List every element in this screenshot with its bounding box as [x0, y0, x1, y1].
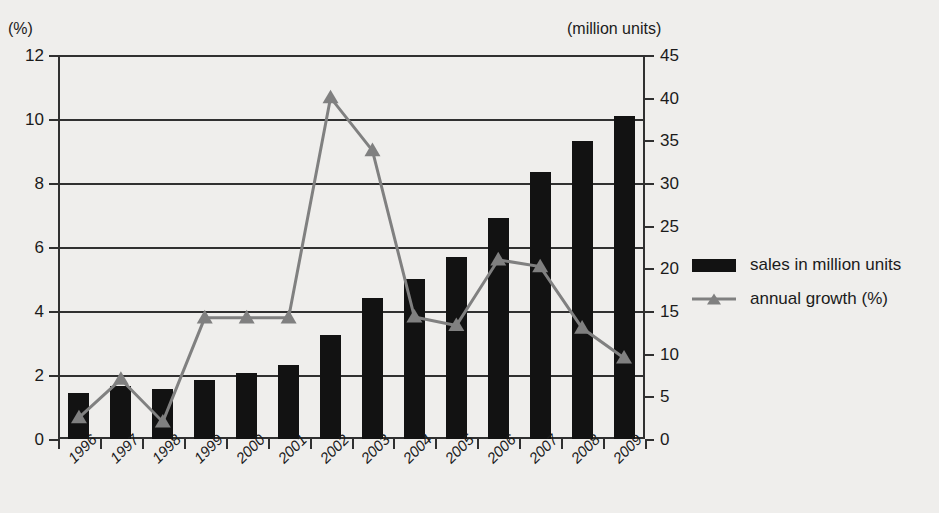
right-axis-tick — [645, 55, 654, 57]
x-axis-tick — [142, 439, 144, 449]
x-axis-tick — [435, 439, 437, 449]
bar — [362, 298, 383, 439]
left-axis-tick-label: 10 — [25, 111, 44, 128]
right-axis-tick — [645, 183, 654, 185]
left-axis-tick — [49, 311, 58, 313]
legend-label-sales: sales in million units — [750, 255, 901, 275]
right-axis-tick-label: 35 — [660, 132, 679, 149]
legend-item-growth: annual growth (%) — [692, 282, 901, 316]
x-axis-tick — [645, 439, 647, 449]
chart-legend: sales in million units annual growth (%) — [692, 248, 901, 316]
right-axis-tick — [645, 311, 654, 313]
left-axis-tick-label: 12 — [25, 47, 44, 64]
plot-area: 024681012 051015202530354045 19961997199… — [58, 55, 645, 439]
bar — [530, 172, 551, 439]
bar — [236, 373, 257, 439]
x-axis-tick — [184, 439, 186, 449]
x-axis-tick — [393, 439, 395, 449]
right-axis-tick-label: 45 — [660, 47, 679, 64]
right-axis-tick-label: 5 — [660, 388, 669, 405]
left-axis-tick-label: 4 — [35, 303, 44, 320]
right-axis-tick-label: 10 — [660, 345, 679, 362]
bar — [572, 141, 593, 439]
left-axis-unit-label: (%) — [8, 20, 33, 38]
right-axis-tick — [645, 396, 654, 398]
legend-item-sales: sales in million units — [692, 248, 901, 282]
bar — [278, 365, 299, 439]
left-axis-tick-label: 8 — [35, 175, 44, 192]
right-axis-unit-label: (million units) — [567, 20, 661, 38]
left-axis-tick — [49, 119, 58, 121]
right-axis-tick-label: 0 — [660, 431, 669, 448]
bar — [488, 218, 509, 439]
right-axis-tick-label: 40 — [660, 89, 679, 106]
left-axis-tick-label: 0 — [35, 431, 44, 448]
right-axis-tick-label: 15 — [660, 303, 679, 320]
right-axis-tick-label: 20 — [660, 260, 679, 277]
gridline — [58, 247, 645, 249]
left-axis-tick-label: 2 — [35, 367, 44, 384]
bar-swatch-icon — [692, 259, 736, 272]
x-axis-tick — [477, 439, 479, 449]
x-axis-tick — [561, 439, 563, 449]
legend-label-growth: annual growth (%) — [750, 289, 888, 309]
x-axis-tick — [58, 439, 60, 449]
x-axis-tick — [519, 439, 521, 449]
left-axis-tick — [49, 247, 58, 249]
bar — [320, 335, 341, 439]
x-axis-tick — [268, 439, 270, 449]
x-axis-tick — [603, 439, 605, 449]
gridline — [58, 183, 645, 185]
gridline — [58, 375, 645, 377]
right-axis-tick-label: 25 — [660, 217, 679, 234]
bar — [404, 279, 425, 439]
right-axis-tick — [645, 354, 654, 356]
right-axis-tick — [645, 268, 654, 270]
right-axis-tick-label: 30 — [660, 175, 679, 192]
x-axis-tick — [100, 439, 102, 449]
left-axis-tick — [49, 183, 58, 185]
x-axis-tick — [226, 439, 228, 449]
left-axis-tick — [49, 375, 58, 377]
gridline — [58, 311, 645, 313]
gridline — [58, 119, 645, 121]
left-axis-tick-label: 6 — [35, 239, 44, 256]
bar — [614, 116, 635, 439]
x-axis-tick — [352, 439, 354, 449]
right-axis-tick — [645, 140, 654, 142]
right-axis-tick — [645, 226, 654, 228]
left-axis-tick — [49, 55, 58, 57]
bar — [446, 257, 467, 439]
bar — [194, 380, 215, 439]
left-axis-tick — [49, 439, 58, 441]
right-axis-tick — [645, 98, 654, 100]
line-triangle-icon — [692, 293, 736, 306]
chart-canvas: (%) (million units) 024681012 0510152025… — [0, 0, 939, 513]
x-axis-tick — [310, 439, 312, 449]
